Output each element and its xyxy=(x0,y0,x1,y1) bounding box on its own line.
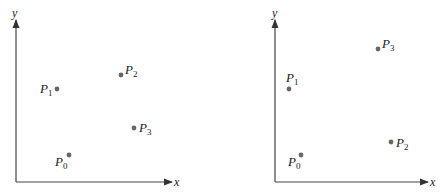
point-p2 xyxy=(119,73,124,78)
label-p3: P3 xyxy=(138,120,152,137)
y-axis-label: y xyxy=(11,6,18,20)
point-p0 xyxy=(67,153,72,158)
point-p1 xyxy=(287,87,292,92)
point-p0 xyxy=(299,153,304,158)
point-p3 xyxy=(132,126,137,131)
label-p2: P2 xyxy=(124,62,137,79)
x-axis-label: x xyxy=(429,175,436,189)
diagram-right: y x P0 P1 P2 P3 xyxy=(271,6,436,189)
label-p1: P1 xyxy=(285,70,298,87)
point-p3 xyxy=(376,47,381,52)
diagram-left: y x P0 P1 P2 P3 xyxy=(11,6,180,189)
figure: y x P0 P1 P2 P3 y x P0 P1 P2 P3 xyxy=(0,0,446,195)
label-p3: P3 xyxy=(381,36,395,53)
label-p1: P1 xyxy=(39,81,52,98)
y-axis-label: y xyxy=(271,6,278,20)
label-p0: P0 xyxy=(287,154,301,171)
label-p0: P0 xyxy=(54,154,68,171)
point-p1 xyxy=(55,87,60,92)
point-p2 xyxy=(389,140,394,145)
x-axis-label: x xyxy=(173,175,180,189)
label-p2: P2 xyxy=(395,135,408,152)
